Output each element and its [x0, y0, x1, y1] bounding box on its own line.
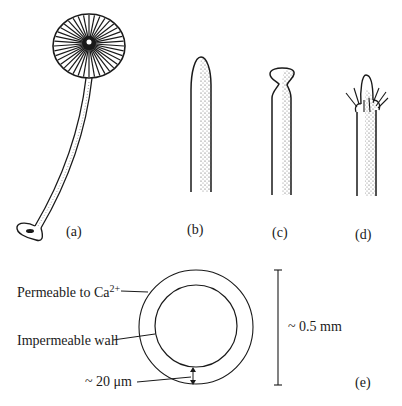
panel-label-a: (a): [66, 224, 82, 240]
panel-d-hair-whorl-tip: (d): [346, 75, 388, 243]
label-permeable: Permeable to Ca2+: [17, 283, 121, 300]
panel-label-e: (e): [355, 375, 371, 391]
label-impermeable-wall: Impermeable wall: [17, 333, 119, 348]
label-thickness: ~ 20 μm: [85, 374, 132, 389]
panel-label-c: (c): [272, 225, 288, 241]
panel-c-cup-tip: (c): [270, 68, 294, 241]
panel-a-organism: (a): [17, 14, 125, 241]
panel-label-b: (b): [187, 222, 204, 238]
figure-diagram: (a) (b) (c) (d): [0, 0, 402, 406]
cap-radial-icon: [53, 14, 125, 78]
thickness-arrow-icon: [190, 367, 196, 385]
scale-bar: [274, 270, 282, 385]
label-diameter: ~ 0.5 mm: [288, 319, 342, 334]
panel-e-cross-section: Permeable to Ca2+ Impermeable wall ~ 20 …: [17, 270, 371, 391]
panel-label-d: (d): [355, 227, 372, 243]
inner-wall-circle: [155, 285, 237, 367]
panel-b-tapered-tip: (b): [187, 57, 211, 238]
